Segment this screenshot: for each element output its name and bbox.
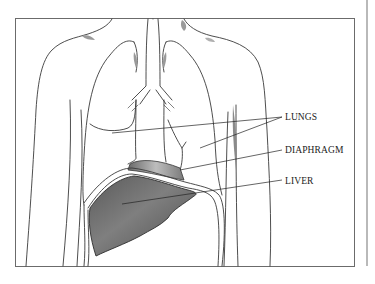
anatomy-diagram: LUNGS DIAPHRAGM LIVER <box>0 0 375 284</box>
label-diaphragm: DIAPHRAGM <box>285 145 344 155</box>
label-liver: LIVER <box>285 176 314 186</box>
label-lungs: LUNGS <box>285 112 317 122</box>
